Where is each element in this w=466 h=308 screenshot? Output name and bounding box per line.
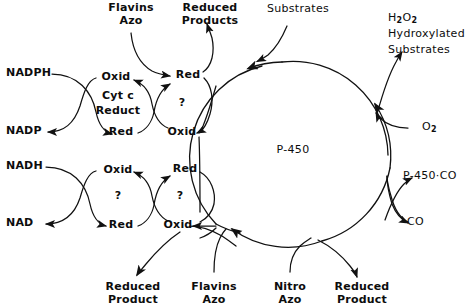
nitro-azo-input xyxy=(290,238,311,272)
cycle3-top-state-label: Oxid xyxy=(104,164,133,177)
hydroxylated-substrates-label: Substrates xyxy=(388,44,450,57)
cycle1-enzyme-line1-label: Cyt c xyxy=(102,90,134,103)
nadh-nad-crossover xyxy=(46,167,106,226)
cycle1-top-state-label: Oxid xyxy=(102,71,131,84)
cycle1-enzyme-line2-label: Reduct xyxy=(96,105,141,118)
co-label: CO xyxy=(407,216,424,229)
cycle4-top-state-label: Red xyxy=(173,163,197,176)
reduced-product-left-output xyxy=(137,232,180,275)
nad-label: NAD xyxy=(6,217,33,230)
p450-center-label: P-450 xyxy=(277,144,310,157)
flavins-azo-top-label: FlavinsAzo xyxy=(108,2,153,27)
substrates-input xyxy=(257,26,287,62)
reduced-product-right-label: ReducedProduct xyxy=(335,281,390,306)
reduced-product-left-label: ReducedProduct xyxy=(106,281,161,306)
hydroxylated-label: Hydroxylated xyxy=(388,28,465,41)
cycle2-enzyme-label: ? xyxy=(179,97,186,110)
p450-cycle-diagram: FlavinsAzo ReducedProducts Substrates H2… xyxy=(0,0,466,308)
lower-oxid-to-circle xyxy=(190,226,236,246)
oxygen-label: O2 xyxy=(422,121,437,137)
peroxide-label: H2O2 xyxy=(388,12,417,28)
flavins-azo-bottom-label: FlavinsAzo xyxy=(191,281,236,306)
cycle1-bottom-state-label: Red xyxy=(109,126,133,139)
p450-co-label: P-450·CO xyxy=(403,170,457,183)
hydroxylated-products-output xyxy=(377,52,402,114)
cycle2-bottom-state-label: Oxid xyxy=(168,126,197,139)
cycle3-bottom-state-label: Red xyxy=(109,219,133,232)
nadph-label: NADPH xyxy=(6,67,51,80)
cycle4-bottom-state-label: Oxid xyxy=(164,219,193,232)
cycle3-enzyme-label: ? xyxy=(115,190,122,203)
reduced-product-right-output xyxy=(318,240,357,277)
nadh-label: NADH xyxy=(6,160,43,173)
reduced-products-output xyxy=(203,24,213,72)
substrates-label: Substrates xyxy=(267,3,329,16)
flavins-azo-top-input xyxy=(131,33,170,76)
cycle2-top-state-label: Red xyxy=(176,69,200,82)
nadp-label: NADP xyxy=(6,125,42,138)
cycle4-enzyme-label: ? xyxy=(177,190,184,203)
reduced-products-label: ReducedProducts xyxy=(182,2,239,27)
nitro-azo-label: NitroAzo xyxy=(274,281,306,306)
